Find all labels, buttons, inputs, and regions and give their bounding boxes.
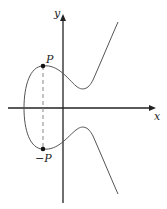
x-axis-label: x [154,111,160,122]
y-axis-label: y [54,8,60,19]
elliptic-curve-diagram [0,0,167,209]
y-axis-arrow-icon [60,14,66,21]
point-P-label: P [46,54,53,65]
x-axis [8,105,156,111]
point-P-marker [41,64,46,69]
point-neg-P-marker [41,147,46,152]
point-neg-P-label: −P [35,153,52,164]
curve-lower-branch [43,127,118,194]
curve-upper-branch [43,22,118,89]
